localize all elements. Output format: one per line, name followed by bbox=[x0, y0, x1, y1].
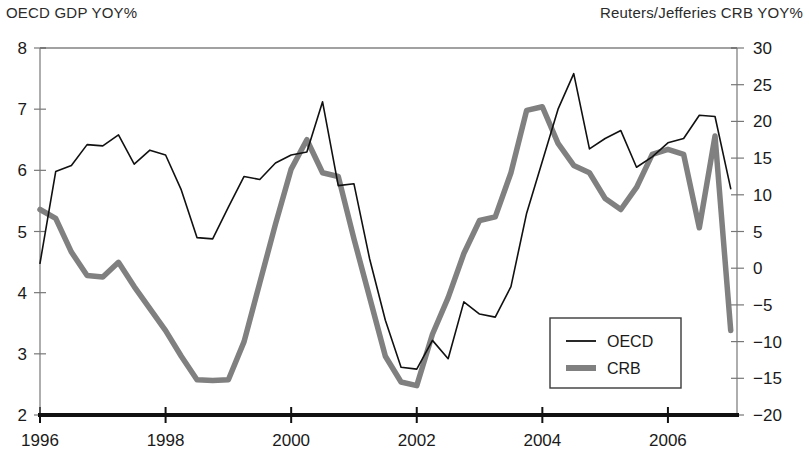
x-tick-label: 1996 bbox=[21, 431, 59, 450]
legend-label-crb: CRB bbox=[607, 360, 641, 377]
right-tick-label: 30 bbox=[753, 39, 772, 58]
left-tick-label: 2 bbox=[18, 406, 27, 425]
right-tick-label: 0 bbox=[753, 259, 762, 278]
right-tick-label: 10 bbox=[753, 186, 772, 205]
x-tick-label: 2006 bbox=[649, 431, 687, 450]
legend-box bbox=[550, 318, 681, 388]
right-tick-label: 20 bbox=[753, 112, 772, 131]
chart-container: OECD GDP YOY% Reuters/Jefferies CRB YOY%… bbox=[0, 0, 809, 453]
right-tick-label: −10 bbox=[753, 333, 782, 352]
right-tick-label: 5 bbox=[753, 223, 762, 242]
left-axis-title: OECD GDP YOY% bbox=[6, 4, 137, 21]
x-tick-label: 1998 bbox=[147, 431, 185, 450]
right-tick-label: −15 bbox=[753, 369, 782, 388]
x-tick-label: 2000 bbox=[272, 431, 310, 450]
left-tick-label: 4 bbox=[18, 284, 27, 303]
right-axis-ticks: −20−15−10−5051015202530 bbox=[731, 39, 782, 425]
x-tick-label: 2004 bbox=[523, 431, 561, 450]
right-tick-label: −20 bbox=[753, 406, 782, 425]
right-tick-label: 15 bbox=[753, 149, 772, 168]
chart-legend: OECD CRB bbox=[550, 318, 681, 388]
legend-label-oecd: OECD bbox=[607, 333, 653, 350]
left-axis-ticks: 2345678 bbox=[18, 39, 46, 425]
left-tick-label: 3 bbox=[18, 345, 27, 364]
right-tick-label: 25 bbox=[753, 76, 772, 95]
left-tick-label: 6 bbox=[18, 161, 27, 180]
chart-plot: 2345678 −20−15−10−5051015202530 19961998… bbox=[0, 0, 809, 453]
left-tick-label: 5 bbox=[18, 223, 27, 242]
left-tick-label: 7 bbox=[18, 100, 27, 119]
x-tick-label: 2002 bbox=[398, 431, 436, 450]
left-tick-label: 8 bbox=[18, 39, 27, 58]
right-axis-title: Reuters/Jefferies CRB YOY% bbox=[600, 4, 803, 21]
right-tick-label: −5 bbox=[753, 296, 772, 315]
